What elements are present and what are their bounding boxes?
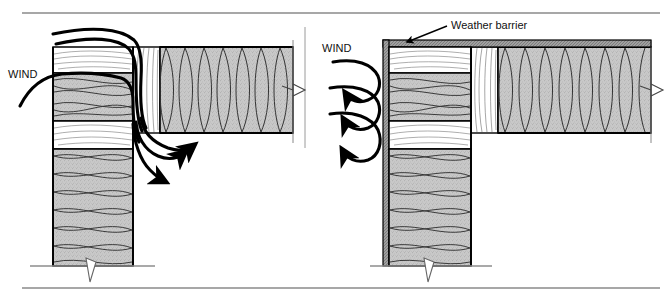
left-break-wedge: [86, 258, 96, 282]
weather-barrier-label: Weather barrier: [451, 19, 528, 31]
deflected-arrow-3: [330, 113, 380, 161]
weather-barrier-callout: Weather barrier: [407, 19, 528, 42]
left-ceiling-assembly: [133, 47, 293, 133]
weather-barrier-top: [383, 40, 651, 47]
panel-left-without-barrier: WIND: [8, 29, 305, 282]
right-mid-plate: [389, 121, 471, 149]
right-deflected-wind-arrows: [330, 61, 380, 162]
weather-barrier-face: [383, 40, 389, 266]
right-ceiling-assembly: [471, 47, 651, 133]
wind-label-left: WIND: [8, 68, 37, 80]
left-mid-plate: [53, 121, 133, 149]
right-break-wedge: [424, 258, 434, 282]
right-wall-assembly: [389, 47, 471, 266]
wall-section-figure: WIND: [0, 0, 668, 296]
left-ceiling-insulation: [160, 47, 293, 133]
right-ceiling-insulation: [498, 47, 651, 133]
wind-label-right: WIND: [322, 42, 351, 54]
left-wall-assembly: [53, 47, 133, 266]
left-floor-break: [30, 258, 155, 282]
panel-right-with-barrier: WIND Weather barrier: [322, 19, 663, 282]
